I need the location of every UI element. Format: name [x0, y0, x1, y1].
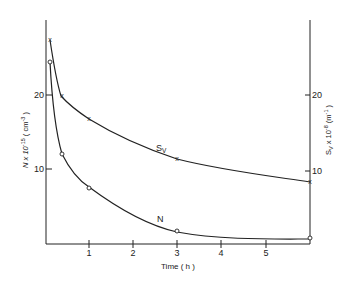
svg-text:x: x [308, 178, 312, 185]
left-y-tick-label: 10 [34, 164, 44, 174]
svg-text:x: x [87, 115, 91, 122]
x-tick-label: 1 [86, 248, 91, 258]
x-tick-label: 4 [218, 248, 223, 258]
sv-series-label: SV [156, 143, 167, 154]
sv-curve [50, 40, 310, 182]
right-y-axis-label: SV x 10-8 (m-1 ) [323, 104, 334, 155]
x-tick-label: 2 [130, 248, 135, 258]
right-y-ticks [305, 95, 310, 171]
x-axis-label: Time ( h ) [161, 262, 195, 271]
n-curve [50, 62, 310, 239]
n-series-label: N [157, 214, 164, 224]
right-y-tick-label: 10 [312, 166, 322, 176]
left-y-tick-label: 20 [34, 90, 44, 100]
chart: 1 2 3 4 5 Time ( h ) 20 10 20 10 N x 10-… [0, 0, 352, 282]
sv-markers: x x x x x [48, 36, 312, 185]
left-y-ticks [46, 95, 52, 169]
n-markers [48, 60, 312, 240]
x-tick-label: 3 [174, 248, 179, 258]
right-y-tick-label: 20 [312, 90, 322, 100]
svg-text:x: x [60, 92, 64, 99]
x-tick-label: 5 [263, 248, 268, 258]
svg-text:x: x [48, 36, 52, 43]
svg-text:x: x [175, 155, 179, 162]
left-y-axis-label: N x 10-15 ( cm-3 ) [20, 112, 30, 168]
